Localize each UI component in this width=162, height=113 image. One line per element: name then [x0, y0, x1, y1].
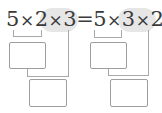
right-bracket-bottom [94, 37, 122, 38]
answer-box-right-step2[interactable] [110, 79, 148, 107]
right-operand-c: 2 [150, 6, 162, 32]
equals-sign: = [76, 6, 93, 32]
answer-box-left-step1[interactable] [9, 42, 46, 69]
answer-box-left-step2[interactable] [29, 79, 67, 107]
left-operand-b: 2 [35, 6, 48, 32]
right-bracket-right-leg [121, 30, 122, 38]
right-connector-horizontal [108, 75, 149, 76]
left-operand-a: 5 [6, 6, 19, 32]
right-operand-b: 3 [122, 6, 135, 32]
left-connector-horizontal [27, 76, 69, 77]
right-times-1: × [106, 7, 122, 33]
left-times-1: × [19, 7, 35, 33]
left-connector-up [68, 30, 69, 77]
math-worksheet: 5×2×3=5×3×2 [0, 0, 162, 113]
answer-box-right-step1[interactable] [90, 42, 127, 69]
left-bracket-bottom [13, 36, 42, 37]
right-operand-a: 5 [93, 6, 106, 32]
right-connector-up [148, 30, 149, 76]
left-bracket-right-leg [41, 30, 42, 37]
equation: 5×2×3=5×3×2 [6, 6, 162, 33]
left-times-2: × [48, 7, 64, 33]
left-operand-c: 3 [63, 6, 76, 32]
